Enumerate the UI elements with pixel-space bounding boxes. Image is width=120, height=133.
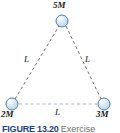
sphere-highlight-bottom-left: [8, 100, 11, 103]
mass-label-top: 5M: [53, 1, 66, 10]
figure-caption: FIGURE 13.20Exercise: [2, 124, 120, 133]
triangle-diagram: [0, 0, 120, 123]
side-label-right: L: [85, 55, 90, 64]
mass-label-bottom-right: 3M: [96, 110, 109, 119]
caption-figure-number: FIGURE 13.20: [2, 124, 59, 133]
caption-description: Exercise: [61, 124, 96, 133]
side-label-left: L: [24, 55, 29, 64]
figure-container: 5M 2M 3M L L L FIGURE 13.20Exercise: [0, 0, 120, 133]
side-line-left: [15, 26, 59, 99]
side-label-bottom: L: [55, 108, 60, 117]
mass-label-bottom-left: 2M: [1, 110, 14, 119]
side-line-right: [66, 26, 101, 99]
sphere-highlight-bottom-right: [100, 100, 103, 103]
sphere-highlight-top: [58, 17, 61, 20]
mass-sphere-top: [56, 15, 68, 27]
